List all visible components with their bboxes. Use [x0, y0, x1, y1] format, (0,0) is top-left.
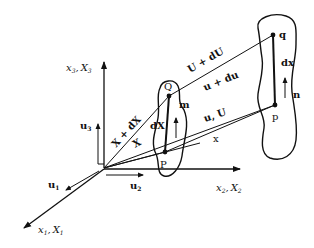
axis-x3-label: x3,X3	[66, 62, 92, 74]
vector-X-plus-dX	[104, 96, 169, 168]
label-U-plus-dU: U + dU	[186, 45, 226, 75]
deformation-diagram: x3,X3 x2,X2 x1,X1 u3 u1 u2 Q P m dX q p …	[0, 0, 314, 248]
u1-label: u1	[48, 179, 59, 191]
axis-x1	[24, 169, 104, 228]
u2-label: u2	[130, 180, 141, 192]
axis-x2-label: x2,X2	[216, 182, 242, 194]
point-P	[163, 150, 168, 155]
label-m: m	[179, 99, 190, 110]
element-dx	[273, 35, 275, 105]
axis-x1-label: x1,X1	[38, 224, 64, 236]
label-u-U: u, U	[202, 106, 228, 125]
label-x: x	[213, 133, 219, 144]
vector-x	[104, 105, 275, 168]
label-p: p	[272, 111, 278, 122]
unit-vector-u1	[66, 171, 99, 190]
label-dx: dx	[281, 57, 295, 68]
label-X: X	[131, 136, 143, 150]
point-Q	[167, 94, 172, 99]
deformed-body-outline	[258, 15, 297, 159]
label-u-plus-du: u + du	[202, 69, 240, 93]
label-dX: dX	[150, 120, 165, 131]
point-p	[273, 103, 278, 108]
element-dX	[165, 96, 169, 152]
u3-label: u3	[80, 120, 91, 132]
label-Q: Q	[164, 81, 172, 92]
label-q: q	[279, 29, 286, 40]
label-n: n	[293, 89, 301, 100]
label-P: P	[160, 159, 167, 170]
point-q	[271, 33, 276, 38]
